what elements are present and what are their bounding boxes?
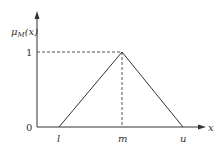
x-tick-u: u — [180, 133, 186, 144]
origin-label: 0 — [26, 122, 32, 133]
membership-triangle — [59, 52, 183, 127]
y-axis-label: μM(x) — [11, 26, 38, 39]
y-tick-1: 1 — [26, 47, 32, 58]
x-tick-l: l — [57, 133, 60, 144]
x-tick-m: m — [118, 133, 127, 144]
triangular-membership-diagram: μM(x) 1 0 l m u x — [0, 0, 219, 149]
x-axis-label: x — [208, 122, 214, 133]
y-axis-arrow-icon — [35, 11, 40, 19]
x-axis-arrow-icon — [198, 125, 206, 130]
